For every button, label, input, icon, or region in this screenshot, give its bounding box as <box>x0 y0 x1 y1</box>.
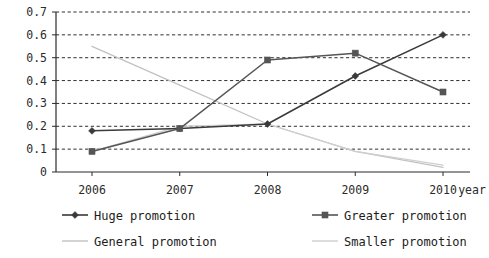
y-tick-label: 0.6 <box>26 28 47 42</box>
x-tick-label: 2006 <box>78 183 106 197</box>
legend-label: Greater promotion <box>344 209 467 223</box>
legend-item[interactable]: Smaller promotion <box>312 235 467 249</box>
legend-marker <box>322 212 328 218</box>
y-tick-label: 0.7 <box>26 5 47 19</box>
data-point-marker <box>177 126 183 132</box>
x-tick-label: 2008 <box>254 183 282 197</box>
data-point-marker <box>89 127 96 134</box>
legend-label: Huge promotion <box>94 209 195 223</box>
legend-label: Smaller promotion <box>344 235 467 249</box>
legend-item[interactable]: Huge promotion <box>62 209 195 223</box>
y-tick-label: 0.3 <box>26 96 47 110</box>
grid-lines <box>56 12 470 149</box>
x-tick-label: 2009 <box>341 183 369 197</box>
legend-marker <box>72 212 79 219</box>
line-chart: 00.10.20.30.40.50.60.7200620072008200920… <box>0 0 489 258</box>
y-tick-label: 0.5 <box>26 51 47 65</box>
y-tick-label: 0.1 <box>26 142 47 156</box>
y-tick-label: 0.4 <box>26 74 47 88</box>
data-point-marker <box>440 31 447 38</box>
x-axis-name: year <box>458 183 486 197</box>
legend-item[interactable]: Greater promotion <box>312 209 467 223</box>
data-point-marker <box>89 148 95 154</box>
y-tick-labels: 00.10.20.30.40.50.60.7 <box>26 5 47 179</box>
x-tick-labels: 20062007200820092010year <box>78 183 486 197</box>
data-point-marker <box>440 89 446 95</box>
axes <box>52 12 470 176</box>
series-group <box>89 31 447 167</box>
chart-canvas: 00.10.20.30.40.50.60.7200620072008200920… <box>0 0 489 258</box>
data-point-marker <box>352 73 359 80</box>
legend: Huge promotionGreater promotionGeneral p… <box>62 209 467 249</box>
data-point-marker <box>352 50 358 56</box>
data-point-marker <box>265 57 271 63</box>
x-tick-label: 2010 <box>429 183 457 197</box>
legend-label: General promotion <box>94 235 217 249</box>
legend-item[interactable]: General promotion <box>62 235 217 249</box>
y-tick-label: 0.2 <box>26 119 47 133</box>
x-tick-label: 2007 <box>166 183 194 197</box>
series-line <box>92 35 443 131</box>
y-tick-label: 0 <box>40 165 47 179</box>
